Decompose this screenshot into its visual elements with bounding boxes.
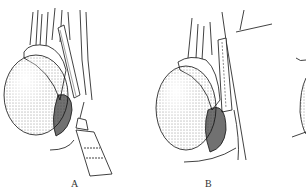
panel-c-partial — [292, 58, 306, 137]
panel-b — [156, 10, 272, 162]
panel-a — [4, 8, 112, 176]
panel-label-b: B — [205, 178, 212, 189]
illustration — [0, 0, 306, 194]
panel-label-a: A — [71, 178, 78, 189]
